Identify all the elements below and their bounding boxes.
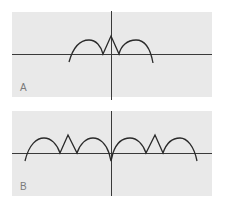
panel-b-label: B [20, 181, 27, 192]
panel-a-axes [12, 11, 212, 100]
panel-b-axes [12, 111, 212, 196]
panel-a-label: A [20, 82, 27, 93]
diagram-canvas [0, 0, 225, 208]
